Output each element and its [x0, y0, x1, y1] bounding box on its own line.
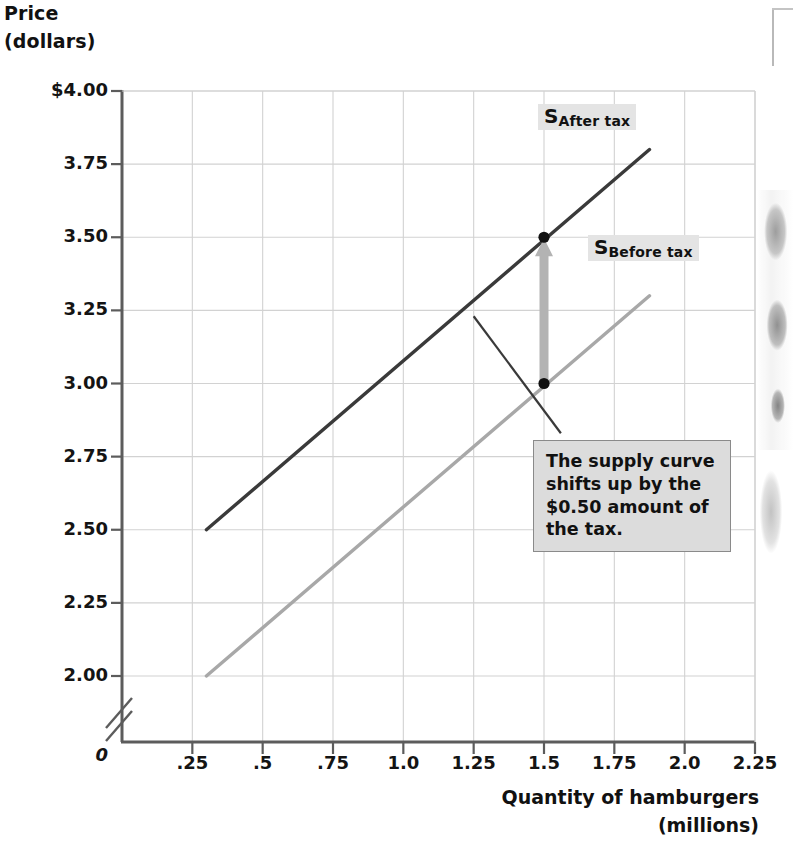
- axis-lines: [106, 90, 755, 742]
- curve-label-after-tax-base: S: [544, 104, 558, 128]
- data-point-marker: [538, 232, 549, 243]
- curve-label-after-tax-subscript: After tax: [558, 113, 630, 129]
- figure-canvas: Price (dollars) Quantity of hamburgers (…: [0, 0, 793, 855]
- supply-curves: [206, 150, 649, 677]
- curve-label-before-tax-subscript: Before tax: [608, 244, 692, 260]
- curve-label-after-tax: SAfter tax: [538, 104, 636, 130]
- data-point-marker: [538, 378, 549, 389]
- gridlines: [122, 91, 755, 742]
- axis-ticks: [111, 91, 755, 754]
- y-axis-break-slash-1: [106, 698, 132, 728]
- curve-label-before-tax-base: S: [594, 235, 608, 259]
- y-axis-break-slash-2: [106, 711, 132, 741]
- plot-area: [0, 0, 793, 855]
- curve-label-before-tax: SBefore tax: [588, 235, 699, 261]
- annotation-callout: The supply curve shifts up by the $0.50 …: [533, 440, 731, 552]
